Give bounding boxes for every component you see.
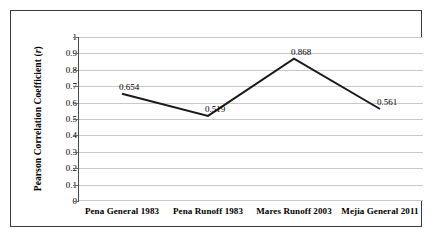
data-point-label: 0.561 <box>377 97 397 106</box>
data-point-label: 0.519 <box>205 104 225 113</box>
figure-border: Pearson Correlation Coefficient (r) 00.1… <box>10 10 422 227</box>
y-axis-ticks <box>73 37 78 201</box>
y-axis-tick-mark <box>73 135 78 136</box>
chart-figure: Pearson Correlation Coefficient (r) 00.1… <box>0 0 433 240</box>
y-axis-tick-mark <box>73 86 78 87</box>
x-axis-tick-label: Mejia General 2011 <box>341 207 418 216</box>
series-line-layer <box>79 37 423 201</box>
y-axis-title-symbol: r <box>33 50 43 54</box>
x-axis-tick-labels: Pena General 1983Pena Runoff 1983Mares R… <box>79 207 423 223</box>
y-axis-tick-mark <box>73 185 78 186</box>
x-axis-tick-label: Pena Runoff 1983 <box>173 207 243 216</box>
x-axis-tick-label: Mares Runoff 2003 <box>256 207 332 216</box>
plot-area <box>79 37 423 201</box>
y-axis-tick-mark <box>73 103 78 104</box>
y-axis-tick-mark <box>73 152 78 153</box>
y-axis-tick-mark <box>73 201 78 202</box>
y-axis-tick-mark <box>73 53 78 54</box>
y-axis-tick-mark <box>73 119 78 120</box>
y-axis-title: Pearson Correlation Coefficient (r) <box>34 34 44 204</box>
x-axis-tick-label: Pena General 1983 <box>85 207 159 216</box>
y-axis-title-text: Pearson Correlation Coefficient <box>33 59 43 191</box>
data-point-label: 0.654 <box>119 82 139 91</box>
series-line-pearson-r <box>122 59 380 116</box>
y-axis-tick-mark <box>73 37 78 38</box>
y-axis-tick-mark <box>73 168 78 169</box>
y-axis-tick-mark <box>73 70 78 71</box>
data-point-label: 0.868 <box>291 47 311 56</box>
